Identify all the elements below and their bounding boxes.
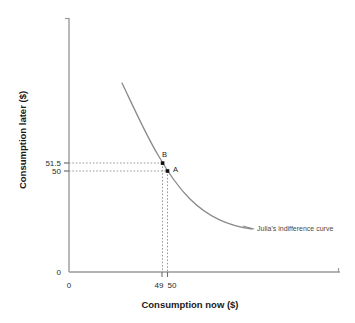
y-axis-title: Consumption later ($) <box>17 91 28 189</box>
chart-canvas: B A 51.5 50 0 0 49 50 Julia's indifferen… <box>0 0 355 323</box>
x-tick-label-0: 0 <box>67 281 72 290</box>
y-tick-label-50: 50 <box>52 167 61 176</box>
indifference-curve-chart: B A 51.5 50 0 0 49 50 Julia's indifferen… <box>0 0 355 323</box>
point-label-a: A <box>173 165 178 174</box>
data-point-b <box>161 161 165 165</box>
x-axis-title: Consumption now ($) <box>141 299 238 310</box>
point-label-b: B <box>162 150 167 159</box>
y-tick-label-0: 0 <box>57 268 62 277</box>
x-tick-label-49: 49 <box>155 281 164 290</box>
indifference-curve-path <box>122 83 252 229</box>
curve-annotation-label: Julia's indifference curve <box>257 225 333 232</box>
data-point-a <box>166 169 170 173</box>
x-tick-label-50: 50 <box>168 281 177 290</box>
